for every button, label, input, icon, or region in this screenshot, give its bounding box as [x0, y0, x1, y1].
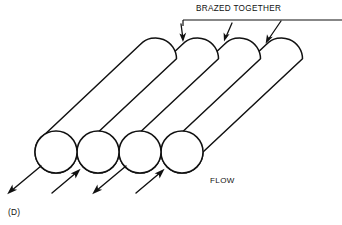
braze-arrow-2	[224, 23, 232, 42]
flow-arrow-1-head	[7, 185, 17, 195]
braze-arrow-1	[179, 24, 186, 42]
flow-arrow-1	[7, 166, 41, 194]
flow-arrow-2-shaft	[52, 172, 77, 193]
figure-id-label: (D)	[8, 207, 20, 217]
braze-callout-leader	[183, 20, 342, 26]
tube-assembly-drawing: BRAZED TOGETHER FLOW (D)	[0, 0, 342, 225]
tube-end-4	[161, 131, 203, 173]
flow-label: FLOW	[210, 176, 235, 185]
flow-arrow-3-head	[92, 185, 102, 195]
flow-arrow-4-shaft	[136, 172, 161, 193]
braze-arrow-3-shaft	[268, 21, 281, 40]
tube-end-2	[77, 131, 119, 173]
brazed-together-label: BRAZED TOGETHER	[196, 4, 281, 13]
flow-arrow-1-shaft	[11, 166, 41, 191]
figure-d-brazed-tubes: BRAZED TOGETHER FLOW (D)	[0, 0, 342, 225]
tube-end-1	[35, 131, 77, 173]
